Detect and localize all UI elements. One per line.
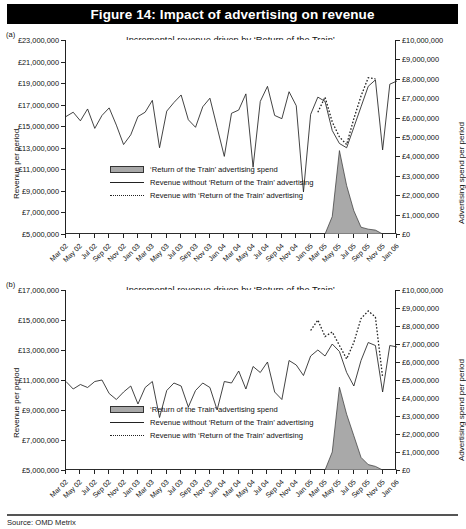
y2-axis-tick-label: £7,000,000 bbox=[402, 94, 439, 103]
y-axis-tick-label: £11,000,000 bbox=[14, 376, 59, 385]
y-axis-tick-mark bbox=[61, 126, 65, 127]
x-axis-tick-mark bbox=[65, 470, 66, 474]
x-axis-tick-mark bbox=[310, 470, 311, 474]
y-axis-tick-label: £5,000,000 bbox=[14, 466, 59, 475]
y2-axis-tick-mark bbox=[396, 362, 400, 363]
y2-axis-tick-label: £8,000,000 bbox=[402, 322, 439, 331]
y2-axis-tick-mark bbox=[396, 98, 400, 99]
y2-axis-tick-mark bbox=[396, 452, 400, 453]
legend-row: Revenue with ‘Return of the Train’ adver… bbox=[110, 430, 314, 441]
source-divider bbox=[7, 514, 458, 516]
x-axis-tick-mark bbox=[252, 234, 253, 238]
chart-panel-a: (a)Incremental revenue driven by ‘Return… bbox=[0, 28, 465, 276]
x-axis-tick-mark bbox=[281, 234, 282, 238]
y2-axis-tick-mark bbox=[396, 215, 400, 216]
x-axis-tick-mark bbox=[108, 234, 109, 238]
y-axis-tick-mark bbox=[61, 40, 65, 41]
x-axis-tick-mark bbox=[223, 234, 224, 238]
y2-axis-tick-mark bbox=[396, 59, 400, 60]
y2-axis-tick-mark bbox=[396, 434, 400, 435]
x-axis-tick-mark bbox=[166, 234, 167, 238]
y2-axis-tick-label: £3,000,000 bbox=[402, 412, 439, 421]
x-axis-tick-mark bbox=[324, 470, 325, 474]
legend-line-revenue-without bbox=[110, 178, 144, 187]
legend-label-advertising-spend: ‘Return of the Train’ advertising spend bbox=[150, 165, 278, 174]
x-axis-tick-mark bbox=[180, 234, 181, 238]
y-axis-tick-mark bbox=[61, 191, 65, 192]
y2-axis-tick-label: £0 bbox=[402, 466, 410, 475]
x-axis-tick-mark bbox=[151, 470, 152, 474]
y2-axis-tick-mark bbox=[396, 290, 400, 291]
legend-label-revenue-with: Revenue with ‘Return of the Train’ adver… bbox=[150, 191, 303, 200]
y2-axis-tick-label: £6,000,000 bbox=[402, 358, 439, 367]
y2-axis-tick-mark bbox=[396, 156, 400, 157]
x-axis-tick-mark bbox=[108, 470, 109, 474]
plot-area bbox=[65, 40, 396, 234]
x-axis-tick-mark bbox=[137, 234, 138, 238]
x-axis-tick-mark bbox=[195, 470, 196, 474]
legend-row: Revenue with ‘Return of the Train’ adver… bbox=[110, 190, 314, 201]
y-axis-tick-mark bbox=[61, 83, 65, 84]
x-axis-tick-mark bbox=[123, 234, 124, 238]
y-axis-tick-mark bbox=[61, 212, 65, 213]
y-axis-tick-mark bbox=[61, 169, 65, 170]
y2-axis-tick-mark bbox=[396, 326, 400, 327]
legend-dots-revenue-with-glyph bbox=[110, 195, 144, 196]
y2-axis-tick-mark bbox=[396, 118, 400, 119]
x-axis-tick-mark bbox=[252, 470, 253, 474]
y2-axis-tick-label: £5,000,000 bbox=[402, 376, 439, 385]
figure-banner: Figure 14: Impact of advertising on reve… bbox=[7, 4, 458, 24]
y2-axis-tick-label: £1,000,000 bbox=[402, 210, 439, 219]
legend-swatch-advertising-spend bbox=[110, 165, 144, 174]
y2-axis-tick-label: £7,000,000 bbox=[402, 340, 439, 349]
legend-swatch-advertising-spend-glyph bbox=[110, 166, 144, 173]
legend-label-revenue-without: Revenue without ‘Return of the Train’ ad… bbox=[150, 418, 314, 427]
x-axis-tick-mark bbox=[338, 234, 339, 238]
y-axis-tick-mark bbox=[61, 148, 65, 149]
chart-legend: ‘Return of the Train’ advertising spendR… bbox=[110, 404, 314, 443]
x-axis-tick-mark bbox=[180, 470, 181, 474]
y2-axis-tick-label: £2,000,000 bbox=[402, 191, 439, 200]
legend-row: ‘Return of the Train’ advertising spend bbox=[110, 404, 314, 415]
y2-axis-tick-label: £3,000,000 bbox=[402, 171, 439, 180]
x-axis-tick-mark bbox=[94, 470, 95, 474]
y2-axis-tick-mark bbox=[396, 380, 400, 381]
legend-label-advertising-spend: ‘Return of the Train’ advertising spend bbox=[150, 405, 278, 414]
x-axis-tick-mark bbox=[310, 234, 311, 238]
legend-line-revenue-without bbox=[110, 418, 144, 427]
right-axis-title: Advertising spend per period bbox=[457, 122, 466, 224]
plot-area bbox=[65, 290, 396, 470]
legend-swatch-advertising-spend-glyph bbox=[110, 406, 144, 413]
x-axis-tick-mark bbox=[123, 470, 124, 474]
x-axis-tick-mark bbox=[266, 234, 267, 238]
x-axis-tick-mark bbox=[266, 470, 267, 474]
y2-axis-tick-label: £4,000,000 bbox=[402, 394, 439, 403]
y-axis-tick-label: £7,000,000 bbox=[14, 208, 59, 217]
legend-dots-revenue-with bbox=[110, 191, 144, 200]
figure-banner-title: Figure 14: Impact of advertising on reve… bbox=[90, 7, 374, 22]
x-axis-tick-mark bbox=[137, 470, 138, 474]
y2-axis-tick-label: £10,000,000 bbox=[402, 36, 443, 45]
x-axis-tick-mark bbox=[367, 470, 368, 474]
x-axis-tick-mark bbox=[209, 470, 210, 474]
y2-axis-tick-label: £0 bbox=[402, 230, 410, 239]
y-axis-tick-mark bbox=[61, 380, 65, 381]
y-axis-tick-label: £9,000,000 bbox=[14, 186, 59, 195]
y-axis-tick-label: £11,000,000 bbox=[14, 165, 59, 174]
y2-axis-tick-mark bbox=[396, 40, 400, 41]
series-canvas bbox=[66, 290, 397, 470]
x-axis-tick-mark bbox=[353, 234, 354, 238]
y2-axis-tick-mark bbox=[396, 398, 400, 399]
legend-label-revenue-with: Revenue with ‘Return of the Train’ adver… bbox=[150, 431, 303, 440]
y2-axis-tick-mark bbox=[396, 195, 400, 196]
x-axis-tick-mark bbox=[223, 470, 224, 474]
x-axis-tick-mark bbox=[151, 234, 152, 238]
x-axis-tick-mark bbox=[238, 470, 239, 474]
y-axis-tick-mark bbox=[61, 290, 65, 291]
y-axis-tick-label: £17,000,000 bbox=[14, 286, 59, 295]
x-axis-tick-mark bbox=[396, 470, 397, 474]
y2-axis-tick-label: £4,000,000 bbox=[402, 152, 439, 161]
y-axis-tick-label: £13,000,000 bbox=[14, 346, 59, 355]
legend-swatch-advertising-spend bbox=[110, 405, 144, 414]
y-axis-tick-mark bbox=[61, 440, 65, 441]
